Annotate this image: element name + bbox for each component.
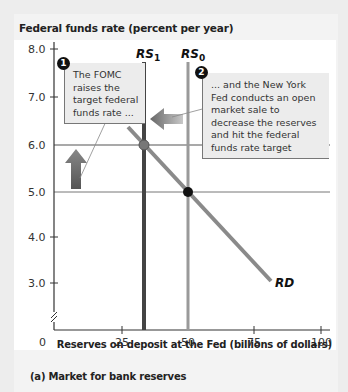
left-arrow-icon xyxy=(150,108,183,130)
annotation-badge-2: 2 xyxy=(195,66,208,79)
rd-label: RD xyxy=(275,276,294,290)
rs0-label: RS0 xyxy=(181,47,205,63)
rs1-label: RS1 xyxy=(136,47,160,63)
y-tick-label: 8.0 xyxy=(28,43,46,56)
y-tick-label: 5.0 xyxy=(28,186,46,199)
equilibrium-point-original xyxy=(183,187,193,197)
x-tick-label: 0 xyxy=(39,336,46,349)
annotation-note-2: ... and the New York Fed conducts an ope… xyxy=(202,73,329,159)
annotation-note-1: The FOMC raises the target federal funds… xyxy=(64,63,145,124)
chart-svg: 8.0 7.0 6.0 5.0 4.0 3.0 0 25 50 75 100 xyxy=(0,0,348,392)
x-axis-title: Reserves on deposit at the Fed (billions… xyxy=(57,339,332,350)
equilibrium-point-new xyxy=(139,140,149,150)
leader-line-1 xyxy=(80,117,108,178)
y-tick-label: 3.0 xyxy=(28,277,46,290)
y-tick-label: 7.0 xyxy=(28,91,46,104)
figure-caption: (a) Market for bank reserves xyxy=(30,371,186,382)
annotation-badge-1: 1 xyxy=(57,57,70,70)
y-tick-label: 4.0 xyxy=(28,231,46,244)
axis-break-icon xyxy=(51,312,57,322)
y-tick-label: 6.0 xyxy=(28,139,46,152)
